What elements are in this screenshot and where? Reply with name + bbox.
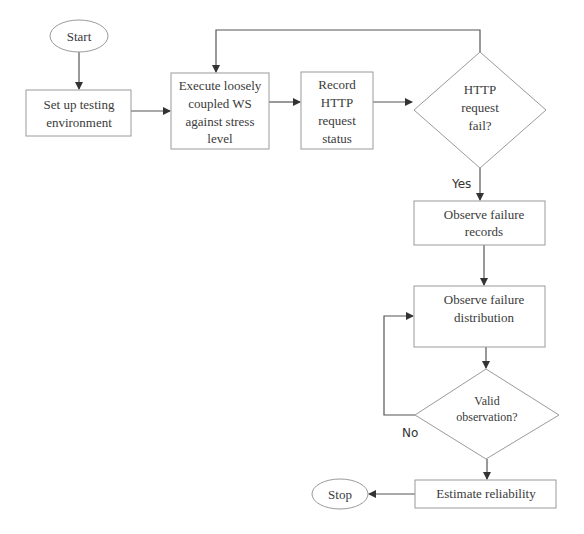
node-http-fail-line-3: fail? xyxy=(468,118,491,133)
node-stop: Stop xyxy=(312,479,368,509)
node-record: Record HTTP request status xyxy=(301,72,373,149)
node-observe-records-line-1: Observe failure xyxy=(444,207,525,222)
node-observe-distribution-line-2: distribution xyxy=(454,310,514,325)
node-valid-line-2: observation? xyxy=(456,410,517,424)
node-start: Start xyxy=(50,20,108,52)
node-observe-distribution-line-1: Observe failure xyxy=(444,292,525,307)
node-execute: Execute loosely coupled WS against stres… xyxy=(171,73,269,149)
node-setup-line-2: environment xyxy=(46,115,112,130)
node-execute-line-3: against stress xyxy=(186,114,255,129)
edge-httpfail-execute-loop xyxy=(216,30,480,72)
node-record-line-1: Record xyxy=(318,77,356,92)
node-record-line-3: request xyxy=(318,113,356,128)
node-http-fail-line-2: request xyxy=(461,100,499,115)
node-start-label: Start xyxy=(67,29,92,44)
node-valid-line-1: Valid xyxy=(474,394,499,408)
node-estimate-label: Estimate reliability xyxy=(436,486,536,501)
node-http-fail-line-1: HTTP xyxy=(464,82,497,97)
node-setup: Set up testing environment xyxy=(26,90,131,136)
node-observe-records: Observe failure records xyxy=(414,201,545,245)
node-execute-line-2: coupled WS xyxy=(188,96,252,111)
node-observe-records-line-2: records xyxy=(465,224,503,239)
edge-label-yes: Yes xyxy=(451,177,471,191)
node-setup-line-1: Set up testing xyxy=(44,97,115,112)
node-execute-line-4: level xyxy=(207,131,233,146)
node-stop-label: Stop xyxy=(328,487,352,502)
edge-valid-distribution-loop xyxy=(384,316,415,415)
flowchart-canvas: Yes No Start Set up testing environment … xyxy=(0,0,584,534)
edge-label-no: No xyxy=(402,426,418,440)
node-observe-distribution: Observe failure distribution xyxy=(414,286,545,347)
node-valid-observation: Valid observation? xyxy=(415,369,559,459)
node-execute-line-1: Execute loosely xyxy=(179,78,262,93)
node-record-line-2: HTTP xyxy=(321,95,354,110)
node-record-line-4: status xyxy=(322,131,352,146)
node-http-fail: HTTP request fail? xyxy=(414,52,546,168)
node-estimate: Estimate reliability xyxy=(415,480,556,508)
